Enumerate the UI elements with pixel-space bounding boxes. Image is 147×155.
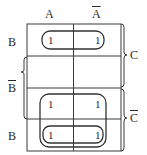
b-bar-brace (21, 57, 27, 119)
cell-r3-c1: 1 (95, 130, 101, 141)
column-label-a-bar: A (92, 8, 101, 20)
bracket-label-c-bar: C (130, 112, 138, 124)
cell-r3-c0: 1 (48, 130, 54, 141)
c-brace (121, 24, 127, 87)
karnaugh-map-lines (0, 0, 147, 155)
column-label-a: A (45, 8, 54, 20)
cell-r2-c0: 1 (48, 99, 54, 110)
row-label-b-bottom: B (8, 130, 16, 142)
cell-r0-c0: 1 (48, 35, 54, 46)
bracket-label-c: C (130, 49, 138, 61)
c-bar-brace (121, 89, 127, 151)
cell-r2-c1: 1 (95, 99, 101, 110)
row-label-b-bar: B (8, 82, 16, 94)
cell-r0-c1: 1 (95, 35, 101, 46)
row-label-b-top: B (8, 36, 16, 48)
